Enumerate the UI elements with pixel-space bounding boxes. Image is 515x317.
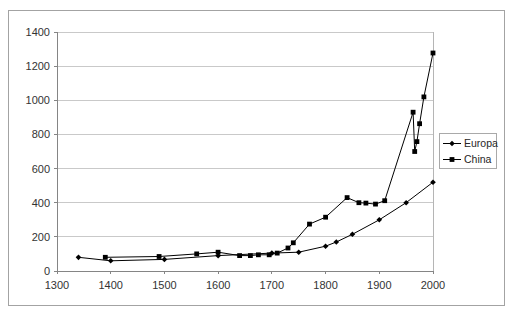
- svg-text:1400: 1400: [98, 279, 122, 291]
- y-tick-labels: 0200400600800100012001400: [26, 26, 50, 277]
- svg-text:1900: 1900: [367, 279, 391, 291]
- svg-text:800: 800: [32, 128, 50, 140]
- svg-text:1700: 1700: [260, 279, 284, 291]
- legend-china-label: China: [464, 154, 491, 165]
- svg-text:1800: 1800: [313, 279, 337, 291]
- diamond-marker-icon: [443, 139, 461, 148]
- svg-text:1000: 1000: [26, 94, 50, 106]
- series-europa: [76, 179, 436, 263]
- svg-text:400: 400: [32, 197, 50, 209]
- chart-window: 0200400600800100012001400130014001500160…: [0, 0, 515, 317]
- svg-text:1500: 1500: [152, 279, 176, 291]
- x-axis: [57, 271, 433, 274]
- square-marker-icon: [443, 155, 461, 164]
- population-line-chart: 0200400600800100012001400130014001500160…: [0, 0, 515, 317]
- legend: Europa China: [439, 133, 497, 169]
- svg-text:200: 200: [32, 231, 50, 243]
- svg-text:1200: 1200: [26, 60, 50, 72]
- svg-text:1300: 1300: [45, 279, 69, 291]
- svg-text:1400: 1400: [26, 26, 50, 38]
- svg-text:600: 600: [32, 163, 50, 175]
- plot-area: 0200400600800100012001400130014001500160…: [26, 26, 446, 291]
- legend-entry-china: China: [443, 152, 494, 166]
- y-axis: [54, 32, 57, 271]
- series-china: [103, 51, 436, 260]
- x-tick-labels: 13001400150016001700180019002000: [45, 279, 445, 291]
- svg-text:0: 0: [44, 265, 50, 277]
- svg-text:1600: 1600: [206, 279, 230, 291]
- legend-europa-label: Europa: [464, 138, 498, 149]
- legend-entry-europa: Europa: [443, 136, 494, 150]
- svg-text:2000: 2000: [421, 279, 445, 291]
